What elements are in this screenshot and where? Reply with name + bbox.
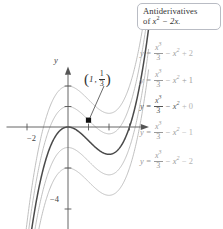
equation-numerator-exponent: 3 <box>159 68 162 74</box>
equation-fraction-denominator: 3 <box>155 54 161 63</box>
equation-middle-exponent: 2 <box>177 155 180 161</box>
y-axis-label: y <box>54 55 58 65</box>
equation-middle-exponent: 2 <box>177 74 180 80</box>
curve-C--2 <box>38 70 149 229</box>
equation-numerator-exponent: 3 <box>159 149 162 155</box>
equation-fraction-numerator: x3 <box>154 71 163 80</box>
equation-lhs: y = <box>140 128 151 137</box>
equation-fraction-numerator: x3 <box>154 152 163 161</box>
callout-expr-rest: − 2x. <box>160 16 181 26</box>
equation-fraction-denominator: 3 <box>155 162 161 171</box>
point-y-fraction: 1 3 <box>99 70 105 88</box>
equation-fraction-numerator: x3 <box>154 97 163 106</box>
equation-fraction-numerator: x3 <box>154 44 163 53</box>
equation-fraction-denominator: 3 <box>155 81 161 90</box>
equation-fraction-denominator: 3 <box>155 107 161 116</box>
point-annotation-label: ( 1, 1 3 ) <box>84 70 111 88</box>
equation-middle-exponent: 2 <box>177 100 180 106</box>
title-callout-box: Antiderivatives of x2 − 2x. <box>137 3 221 30</box>
equation-label-1: y =x33− x2+ 2 <box>140 44 193 62</box>
equation-lhs: y = <box>140 76 151 85</box>
equation-fraction-denominator: 3 <box>155 133 161 142</box>
equation-middle-term: − x2 <box>165 102 179 111</box>
equation-label-3: y =x33− x2+ 0 <box>140 97 193 115</box>
equation-fraction: x33 <box>154 71 163 89</box>
equation-middle-exponent: 2 <box>177 47 180 53</box>
callout-line-2: of x2 − 2x. <box>143 16 216 26</box>
equation-numerator-exponent: 3 <box>159 41 162 47</box>
curve-C-0 <box>31 29 149 229</box>
equation-fraction: x33 <box>154 97 163 115</box>
equation-middle-exponent: 2 <box>177 126 180 132</box>
equation-middle-term: − x2 <box>165 49 179 58</box>
equation-constant-term: + 2 <box>182 49 193 58</box>
curve-C-2 <box>26 29 143 229</box>
point-x-value: 1 <box>89 74 94 84</box>
equation-constant-term: − 1 <box>182 128 193 137</box>
annotation-leader-line <box>90 86 104 118</box>
equation-label-4: y =x33− x2− 1 <box>140 123 193 141</box>
x-tick-label-minus2: −2 <box>27 133 36 143</box>
equation-fraction: x33 <box>154 44 163 62</box>
y-tick-label-minus4: −4 <box>50 194 59 204</box>
y-axis-arrow <box>65 67 71 75</box>
equation-fraction: x33 <box>154 123 163 141</box>
equation-numerator-exponent: 3 <box>159 120 162 126</box>
callout-line-1: Antiderivatives <box>143 6 216 16</box>
equation-label-2: y =x33− x2+ 1 <box>140 71 193 89</box>
equation-fraction: x33 <box>154 152 163 170</box>
callout-of-prefix: of <box>143 16 153 26</box>
equation-middle-term: − x2 <box>165 76 179 85</box>
equation-lhs: y = <box>140 102 151 111</box>
equation-lhs: y = <box>140 49 151 58</box>
paren-close: ) <box>106 72 111 87</box>
fraction-numerator: 1 <box>99 70 105 79</box>
highlighted-point-marker <box>86 118 91 123</box>
equation-numerator-exponent: 3 <box>159 94 162 100</box>
equation-constant-term: − 2 <box>182 157 193 166</box>
equation-middle-term: − x2 <box>165 157 179 166</box>
fraction-denominator: 3 <box>99 80 105 89</box>
point-coords: 1, 1 3 <box>89 70 106 88</box>
equation-lhs: y = <box>140 157 151 166</box>
equation-constant-term: + 0 <box>182 102 193 111</box>
equation-constant-term: + 1 <box>182 76 193 85</box>
equation-label-5: y =x33− x2− 2 <box>140 152 193 170</box>
equation-middle-term: − x2 <box>165 128 179 137</box>
figure-canvas: Antiderivatives of x2 − 2x. y −2 −4 ( 1,… <box>0 0 223 229</box>
point-comma: , <box>95 74 97 84</box>
equation-fraction-numerator: x3 <box>154 123 163 132</box>
